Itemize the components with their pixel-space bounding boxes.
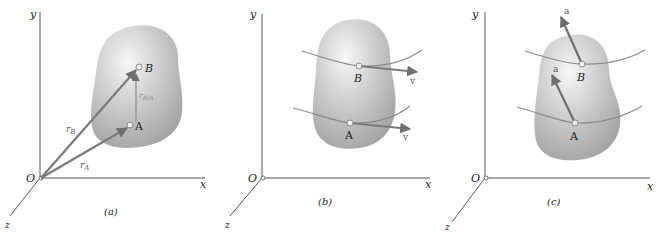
panel-b-caption: (b) <box>318 196 332 207</box>
vector-a-B-label: a <box>564 6 570 16</box>
x-axis-label: x <box>647 180 654 193</box>
point-B-label: B <box>353 72 362 85</box>
z-axis <box>452 178 485 222</box>
point-A-label: A <box>344 129 354 142</box>
y-axis-label: y <box>29 8 37 21</box>
point-B <box>579 61 585 67</box>
point-A <box>127 122 133 128</box>
point-B <box>136 64 142 70</box>
z-axis-label: z <box>224 220 230 230</box>
vector-v-A-label: v <box>402 132 409 142</box>
point-A <box>572 120 578 126</box>
origin-label: O <box>248 172 257 185</box>
point-B <box>356 63 362 69</box>
origin-point <box>261 176 265 180</box>
origin-point <box>484 176 488 180</box>
panel-b-figure: y x z O B A v v (b) <box>220 0 440 237</box>
panel-c: y x z O B A a a (c) <box>437 0 657 237</box>
panel-a: y x z O B A rB rA rB/A (a) <box>0 0 220 237</box>
vector-rA-label: rA <box>80 160 89 172</box>
x-axis-label: x <box>200 178 207 191</box>
panel-c-figure: y x z O B A a a (c) <box>437 0 657 237</box>
point-B-label: B <box>576 71 585 84</box>
panel-c-caption: (c) <box>547 196 561 207</box>
vector-rB-label: rB <box>66 124 75 136</box>
y-axis-label: y <box>471 8 479 21</box>
point-A-label: A <box>134 120 144 133</box>
point-B-label: B <box>144 62 153 75</box>
vector-v-B-label: v <box>409 76 416 86</box>
panel-a-figure: y x z O B A rB rA rB/A (a) <box>0 0 220 237</box>
z-axis-label: z <box>4 220 10 230</box>
origin-label: O <box>471 172 480 185</box>
z-axis-label: z <box>444 222 450 232</box>
panel-a-caption: (a) <box>104 206 118 217</box>
point-A <box>347 120 353 126</box>
y-axis-label: y <box>249 8 257 21</box>
x-axis-label: x <box>425 178 432 191</box>
vector-a-A-label: a <box>553 64 559 74</box>
panel-b: y x z O B A v v (b) <box>220 0 440 237</box>
z-axis <box>10 178 40 216</box>
point-A-label: A <box>569 130 579 143</box>
origin-label: O <box>26 172 35 185</box>
z-axis <box>230 178 262 216</box>
